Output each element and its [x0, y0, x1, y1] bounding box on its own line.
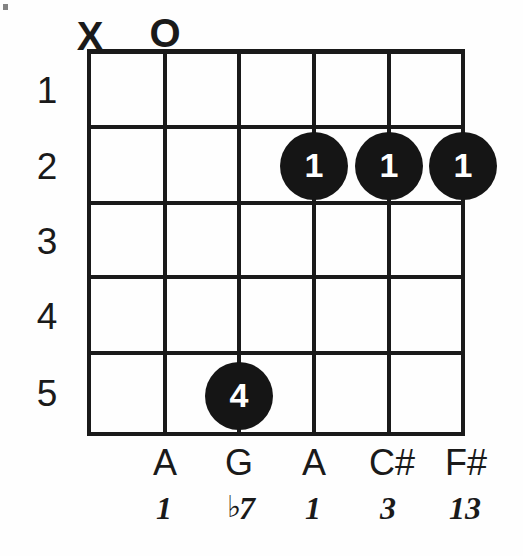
string-line-5: [387, 51, 391, 434]
open-string-marker-2: O: [149, 13, 180, 53]
fret-line-3: [87, 275, 465, 279]
note-name-string2: A: [153, 445, 177, 481]
interval-degree: 1: [305, 490, 321, 526]
fret-line-5: [87, 432, 465, 436]
finger-dot-label: 1: [305, 148, 324, 182]
fret-number-3: 3: [37, 223, 58, 260]
note-name-string3: G: [225, 445, 253, 481]
interval-string5: 3: [382, 492, 396, 524]
fret-number-1: 1: [37, 72, 58, 109]
interval-string2: 1: [158, 492, 172, 524]
string-line-6: [461, 51, 465, 434]
interval-string3: ♭7: [227, 492, 255, 524]
finger-dot-label: 1: [380, 148, 399, 182]
fret-line-2: [87, 201, 465, 205]
finger-dot-label: 1: [454, 148, 473, 182]
interval-string6: 13: [451, 492, 481, 524]
fret-line-4: [87, 351, 465, 355]
fret-number-4: 4: [37, 298, 58, 335]
string-line-1: [87, 51, 91, 434]
finger-dot-string3-fret5: 4: [205, 362, 273, 430]
fret-line-1: [87, 125, 465, 129]
finger-dot-label: 4: [230, 378, 249, 412]
string-line-4: [312, 51, 316, 434]
finger-dot-string5-fret2: 1: [355, 132, 423, 200]
string-line-2: [163, 51, 167, 434]
interval-degree: 7: [239, 490, 255, 526]
fretboard-grid: [89, 51, 463, 434]
fret-number-2: 2: [37, 148, 58, 185]
fret-number-5: 5: [37, 375, 58, 412]
interval-degree: 3: [380, 490, 396, 526]
note-name-string4: A: [302, 445, 326, 481]
finger-dot-string4-fret2: 1: [280, 132, 348, 200]
interval-string4: 1: [307, 492, 321, 524]
chord-diagram: 1 2 3 4 5 X O 1 1 1 4 A G A C# F# 1: [0, 0, 523, 556]
note-name-string5: C#: [369, 445, 415, 481]
scan-artifact-speck: [3, 4, 8, 10]
interval-degree: 1: [156, 490, 172, 526]
interval-degree: 13: [449, 490, 481, 526]
finger-dot-string6-fret2: 1: [429, 132, 497, 200]
note-name-string6: F#: [445, 445, 487, 481]
nut-line: [87, 49, 465, 54]
